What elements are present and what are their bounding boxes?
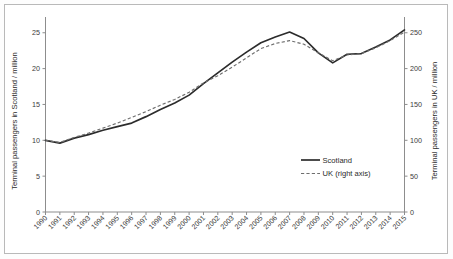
x-axis: 1990199119921993199419951996199719981999… <box>32 212 408 231</box>
x-axis-tick-label: 2008 <box>291 214 308 231</box>
x-axis-tick-label: 1993 <box>75 214 92 231</box>
x-axis-tick-label: 2010 <box>319 214 336 231</box>
x-axis-tick-label: 1994 <box>90 214 107 231</box>
y-axis-left-tick-label: 25 <box>32 28 40 37</box>
y-axis-right-tick-label: 50 <box>410 172 418 181</box>
plot-area: 0510152025 050100150200250 1990199119921… <box>0 0 453 259</box>
legend-label: Scotland <box>323 156 353 165</box>
x-axis-tick-label: 2009 <box>305 214 322 231</box>
chart-figure: 0510152025 050100150200250 1990199119921… <box>0 0 453 259</box>
x-axis-tick-label: 2006 <box>262 214 279 231</box>
x-axis-tick-label: 1992 <box>61 214 78 231</box>
x-axis-tick-label: 1997 <box>133 214 150 231</box>
y-axis-left-tick-label: 15 <box>32 100 40 109</box>
y-axis-left-tick-label: 0 <box>36 208 40 217</box>
x-axis-tick-label: 1998 <box>147 214 164 231</box>
x-axis-tick-label: 2004 <box>233 214 250 231</box>
y-axis-right: 050100150200250 <box>405 17 423 217</box>
y-axis-right-title: Terminal passengers in UK / million <box>430 62 439 181</box>
x-axis-tick-label: 2014 <box>377 214 394 231</box>
y-axis-right-tick-label: 0 <box>410 208 414 217</box>
y-axis-left-tick-label: 10 <box>32 136 40 145</box>
dual-axis-line-chart: 0510152025 050100150200250 1990199119921… <box>0 0 453 259</box>
legend-label: UK (right axis) <box>323 169 372 178</box>
x-axis-tick-label: 2015 <box>391 214 408 231</box>
series-line-uk <box>46 32 405 142</box>
y-axis-right-tick-label: 150 <box>410 100 422 109</box>
x-axis-tick-label: 1995 <box>104 214 121 231</box>
y-axis-left-title: Terminal passengers in Scotland / millio… <box>10 52 19 190</box>
series-lines <box>46 30 405 143</box>
x-axis-tick-label: 2003 <box>219 214 236 231</box>
x-axis-tick-label: 2011 <box>334 214 350 230</box>
x-axis-tick-label: 1996 <box>118 214 135 231</box>
x-axis-tick-label: 2002 <box>205 214 222 231</box>
x-axis-tick-label: 1990 <box>32 214 49 231</box>
y-axis-right-tick-label: 100 <box>410 136 422 145</box>
y-axis-right-tick-label: 250 <box>410 28 422 37</box>
x-axis-tick-label: 2012 <box>348 214 365 231</box>
x-axis-tick-label: 2007 <box>276 214 293 231</box>
y-axis-left-tick-label: 5 <box>36 172 40 181</box>
x-axis-tick-label: 1999 <box>162 214 179 231</box>
series-line-scotland <box>46 30 405 143</box>
y-axis-left-tick-label: 20 <box>32 64 40 73</box>
x-axis-tick-label: 2001 <box>190 214 207 231</box>
y-axis-right-tick-label: 200 <box>410 64 422 73</box>
x-axis-tick-label: 1991 <box>47 214 64 231</box>
y-axis-left: 0510152025 <box>32 17 46 217</box>
x-axis-tick-label: 2013 <box>363 214 380 231</box>
chart-legend: ScotlandUK (right axis) <box>301 156 371 179</box>
x-axis-tick-label: 2000 <box>176 214 193 231</box>
x-axis-tick-label: 2005 <box>248 214 265 231</box>
